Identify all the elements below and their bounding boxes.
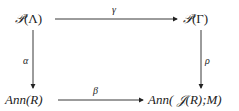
- open-paren: (: [169, 92, 177, 107]
- node-arg: (R): [26, 92, 43, 107]
- label-alpha: α: [23, 56, 28, 66]
- node-arg: (R);M): [186, 92, 222, 107]
- script-j-symbol: 𝒥: [177, 92, 186, 107]
- node-top-left: 𝒫(Λ): [15, 12, 42, 26]
- node-bottom-left: Ann(R): [5, 93, 43, 107]
- script-p-symbol: 𝒫: [15, 11, 24, 26]
- script-p-symbol: 𝒫: [183, 11, 192, 26]
- label-beta: β: [93, 86, 98, 96]
- node-top-right: 𝒫(Γ): [183, 12, 208, 26]
- ann-text: Ann: [5, 92, 26, 107]
- node-arg: (Γ): [192, 11, 208, 26]
- node-arg: (Λ): [24, 11, 42, 26]
- label-rho: ρ: [205, 56, 210, 66]
- ann-text: Ann: [148, 92, 169, 107]
- node-bottom-right: Ann( 𝒥(R);M): [148, 93, 222, 107]
- label-gamma: γ: [112, 5, 116, 15]
